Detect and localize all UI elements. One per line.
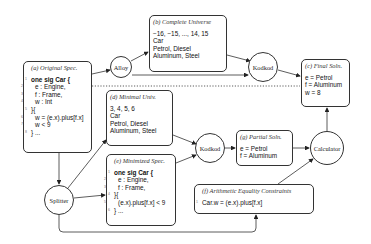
- minimized-spec-box: (e) Minimized Spec. 1one sig Car { 2e : …: [106, 154, 176, 226]
- universe-line: Car: [153, 37, 223, 45]
- solution-line: w = 8: [305, 89, 346, 97]
- original-spec-title: (a) Original Spec.: [31, 64, 88, 72]
- arithmetic-constraints-title: (f) Arithmetic Equality Constraints: [202, 187, 310, 195]
- code-line: 1one sig Car {: [114, 169, 172, 177]
- code-line: 6} ...: [114, 207, 172, 215]
- alloy-node: Alloy: [110, 56, 132, 78]
- partial-solution-title: (g) Partial Soln.: [240, 133, 289, 141]
- code-line: 6w = (e.x).plus[f.x]: [31, 114, 88, 122]
- final-solution-title: (c) Final Soln.: [305, 62, 346, 70]
- minimal-universe-box: (d) Minimal Univ. 3, 4, 5, 6 Car Petrol,…: [106, 90, 173, 146]
- pipeline-diagram: (a) Original Spec. 1one sig Car { 2e : E…: [0, 0, 371, 244]
- splitter-node: Splitter: [44, 185, 74, 215]
- solution-line: e = Petrol: [240, 145, 289, 153]
- universe-line: −16, −15, ..., 14, 15: [153, 30, 223, 38]
- minimal-universe-title: (d) Minimal Univ.: [110, 93, 169, 101]
- solution-line: f = Aluminum: [240, 152, 289, 160]
- universe-line: Car: [110, 112, 169, 120]
- complete-universe-title: (b) Complete Universe: [153, 18, 223, 26]
- code-line: 4w : Int: [31, 98, 88, 106]
- code-line: 1one sig Car {: [31, 76, 88, 84]
- final-solution-box: (c) Final Soln. e = Petrol f = Aluminum …: [301, 59, 350, 107]
- universe-line: Petrol, Diesel: [110, 120, 169, 128]
- solution-line: e = Petrol: [305, 74, 346, 82]
- universe-line: Petrol, Diesel: [153, 45, 223, 53]
- kodkod-top-node: Kodkod: [248, 52, 278, 82]
- kodkod-mid-node: Kodkod: [195, 133, 225, 163]
- code-line: 3f : Frame,: [31, 91, 88, 99]
- code-line: 2e : Engine,: [31, 83, 88, 91]
- partial-solution-box: (g) Partial Soln. e = Petrol f = Aluminu…: [236, 130, 293, 166]
- code-line: 3f : Frame,: [114, 184, 172, 192]
- complete-universe-box: (b) Complete Universe −16, −15, ..., 14,…: [149, 15, 227, 72]
- arithmetic-constraints-box: (f) Arithmetic Equality Constraints 1Car…: [194, 184, 314, 214]
- solution-line: f = Aluminum: [305, 81, 346, 89]
- calculator-node: Calculator: [310, 131, 344, 165]
- code-line: 1Car.w = (e.x).plus[f.x]: [202, 199, 310, 207]
- code-line: 5(e.x).plus[f.x] < 9: [114, 199, 172, 207]
- universe-line: Aluminum, Steel: [153, 52, 223, 60]
- original-spec-box: (a) Original Spec. 1one sig Car { 2e : E…: [23, 61, 92, 153]
- code-line: 5}{: [31, 106, 88, 114]
- code-line: 7w < 9: [31, 121, 88, 129]
- universe-line: Aluminum, Steel: [110, 127, 169, 135]
- code-line: 8} ...: [31, 129, 88, 137]
- minimized-spec-title: (e) Minimized Spec.: [114, 157, 172, 165]
- code-line: 4}{: [114, 191, 172, 199]
- universe-line: 3, 4, 5, 6: [110, 105, 169, 113]
- code-line: 2e : Engine,: [114, 176, 172, 184]
